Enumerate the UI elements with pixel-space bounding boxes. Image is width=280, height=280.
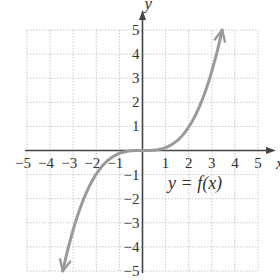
y-tick-label: −3: [124, 215, 140, 231]
x-tick-label: 3: [208, 155, 216, 171]
y-tick-label: 5: [132, 22, 140, 38]
y-tick-label: −4: [124, 239, 140, 255]
y-tick-label: 4: [132, 46, 140, 62]
x-tick-label: 5: [254, 155, 262, 171]
y-tick-label: −1: [124, 167, 140, 183]
x-tick-label: 4: [231, 155, 239, 171]
y-axis-label: y: [143, 0, 153, 13]
x-tick-label: −3: [61, 155, 77, 171]
function-label: y = f(x): [166, 173, 222, 194]
x-tick-label: 1: [162, 155, 170, 171]
y-tick-label: 1: [132, 118, 140, 134]
x-tick-label: −2: [84, 155, 100, 171]
y-tick-label: −5: [124, 263, 140, 279]
y-tick-label: 3: [132, 70, 140, 86]
y-tick-label: −2: [124, 191, 140, 207]
x-tick-label: −5: [15, 155, 31, 171]
function-graph: −5−4−3−2−112345−5−4−3−2−112345 y x y = f…: [0, 0, 280, 280]
axes: [25, 10, 276, 273]
x-tick-label: −4: [38, 155, 54, 171]
y-tick-label: 2: [132, 94, 140, 110]
x-tick-label: 2: [185, 155, 193, 171]
x-axis-label: x: [275, 154, 280, 173]
x-axis-arrow-icon: [266, 147, 276, 154]
